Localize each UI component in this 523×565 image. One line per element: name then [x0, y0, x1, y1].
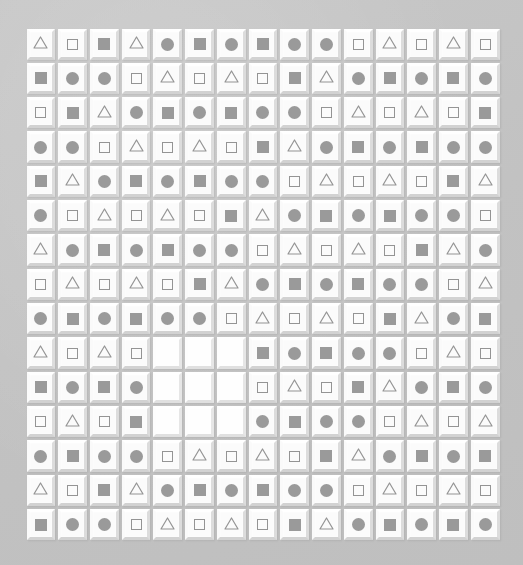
shape-tile[interactable]: [280, 509, 309, 540]
grid-cell[interactable]: [279, 336, 311, 370]
grid-cell[interactable]: [25, 439, 57, 473]
shape-tile[interactable]: [90, 97, 119, 128]
grid-cell[interactable]: [247, 508, 279, 542]
shape-tile[interactable]: [439, 372, 468, 403]
grid-cell[interactable]: [120, 508, 152, 542]
shape-tile[interactable]: [122, 234, 151, 265]
shape-tile[interactable]: [376, 29, 405, 60]
grid-cell[interactable]: [438, 233, 470, 267]
empty-tile[interactable]: [185, 372, 214, 403]
grid-cell[interactable]: [88, 508, 120, 542]
shape-tile[interactable]: [27, 131, 56, 162]
empty-tile[interactable]: [153, 372, 182, 403]
shape-tile[interactable]: [185, 131, 214, 162]
shape-tile[interactable]: [280, 200, 309, 231]
shape-tile[interactable]: [407, 406, 436, 437]
shape-tile[interactable]: [90, 406, 119, 437]
shape-tile[interactable]: [122, 97, 151, 128]
shape-tile[interactable]: [439, 29, 468, 60]
grid-cell[interactable]: [152, 473, 184, 507]
grid-cell[interactable]: [311, 336, 343, 370]
shape-tile[interactable]: [217, 63, 246, 94]
grid-cell[interactable]: [406, 199, 438, 233]
shape-tile[interactable]: [249, 406, 278, 437]
shape-tile[interactable]: [407, 303, 436, 334]
shape-tile[interactable]: [344, 269, 373, 300]
grid-cell[interactable]: [406, 96, 438, 130]
shape-tile[interactable]: [249, 29, 278, 60]
shape-tile[interactable]: [344, 166, 373, 197]
shape-tile[interactable]: [58, 166, 87, 197]
shape-tile[interactable]: [471, 337, 500, 368]
shape-tile[interactable]: [376, 200, 405, 231]
shape-tile[interactable]: [27, 372, 56, 403]
shape-tile[interactable]: [217, 200, 246, 231]
shape-tile[interactable]: [439, 406, 468, 437]
grid-cell[interactable]: [374, 61, 406, 95]
empty-tile[interactable]: [217, 406, 246, 437]
shape-tile[interactable]: [27, 234, 56, 265]
shape-tile[interactable]: [439, 234, 468, 265]
grid-cell[interactable]: [374, 199, 406, 233]
shape-tile[interactable]: [376, 166, 405, 197]
grid-cell[interactable]: [311, 27, 343, 61]
grid-cell[interactable]: [215, 61, 247, 95]
grid-cell[interactable]: [215, 164, 247, 198]
grid-cell[interactable]: [57, 199, 89, 233]
grid-cell[interactable]: [184, 508, 216, 542]
grid-cell[interactable]: [57, 130, 89, 164]
shape-tile[interactable]: [249, 303, 278, 334]
shape-tile[interactable]: [471, 63, 500, 94]
shape-tile[interactable]: [90, 269, 119, 300]
shape-tile[interactable]: [439, 337, 468, 368]
grid-cell[interactable]: [311, 405, 343, 439]
grid-cell[interactable]: [406, 267, 438, 301]
shape-tile[interactable]: [249, 97, 278, 128]
shape-tile[interactable]: [280, 131, 309, 162]
grid-cell[interactable]: [438, 61, 470, 95]
shape-tile[interactable]: [344, 63, 373, 94]
grid-cell[interactable]: [406, 130, 438, 164]
empty-tile[interactable]: [217, 337, 246, 368]
shape-tile[interactable]: [185, 475, 214, 506]
grid-cell[interactable]: [342, 508, 374, 542]
grid-cell[interactable]: [152, 233, 184, 267]
grid-cell[interactable]: [374, 473, 406, 507]
grid-cell[interactable]: [438, 370, 470, 404]
shape-tile[interactable]: [90, 440, 119, 471]
shape-tile[interactable]: [58, 63, 87, 94]
shape-tile[interactable]: [122, 303, 151, 334]
grid-cell[interactable]: [184, 164, 216, 198]
shape-tile[interactable]: [249, 200, 278, 231]
grid-cell[interactable]: [120, 164, 152, 198]
shape-tile[interactable]: [217, 269, 246, 300]
grid-cell[interactable]: [57, 267, 89, 301]
grid-cell[interactable]: [311, 473, 343, 507]
shape-tile[interactable]: [217, 440, 246, 471]
shape-tile[interactable]: [185, 63, 214, 94]
grid-cell[interactable]: [311, 164, 343, 198]
shape-tile[interactable]: [249, 166, 278, 197]
grid-cell[interactable]: [342, 96, 374, 130]
grid-cell[interactable]: [279, 130, 311, 164]
shape-tile[interactable]: [407, 166, 436, 197]
shape-tile[interactable]: [471, 372, 500, 403]
grid-cell[interactable]: [120, 96, 152, 130]
shape-tile[interactable]: [312, 97, 341, 128]
empty-tile[interactable]: [153, 406, 182, 437]
grid-cell[interactable]: [438, 302, 470, 336]
shape-tile[interactable]: [439, 303, 468, 334]
shape-tile[interactable]: [90, 475, 119, 506]
shape-tile[interactable]: [344, 406, 373, 437]
grid-cell[interactable]: [152, 370, 184, 404]
shape-tile[interactable]: [471, 406, 500, 437]
grid-cell[interactable]: [152, 96, 184, 130]
grid-cell[interactable]: [342, 302, 374, 336]
shape-tile[interactable]: [153, 131, 182, 162]
shape-tile[interactable]: [249, 63, 278, 94]
grid-cell[interactable]: [406, 164, 438, 198]
shape-tile[interactable]: [312, 337, 341, 368]
shape-tile[interactable]: [217, 509, 246, 540]
grid-cell[interactable]: [247, 370, 279, 404]
shape-tile[interactable]: [407, 200, 436, 231]
